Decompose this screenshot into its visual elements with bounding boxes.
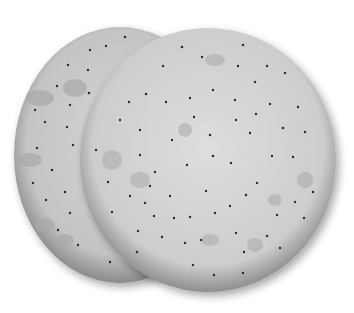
crackers-illustration (0, 0, 354, 313)
photo-crackers (0, 0, 354, 313)
front-cracker (80, 28, 336, 292)
